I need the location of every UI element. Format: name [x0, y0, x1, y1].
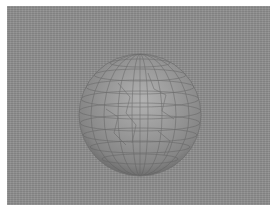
sphere-graphic: [78, 53, 202, 177]
mesh-sphere: [78, 53, 202, 177]
render-viewport: [7, 6, 270, 205]
